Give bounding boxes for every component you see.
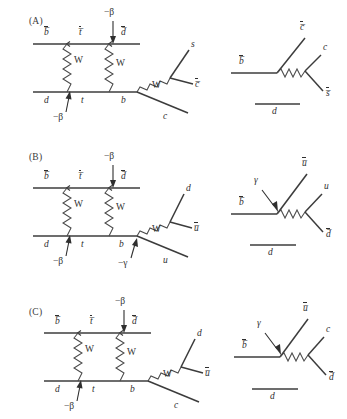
phase-arrowhead-gamma — [132, 238, 138, 247]
decay-product-line-c — [148, 381, 199, 402]
label-w-left: W — [85, 344, 94, 354]
eff-label-bbar: b̅ — [239, 197, 244, 208]
eff-dbar-line — [305, 212, 323, 232]
eff-w-boson-zigzag — [277, 210, 305, 218]
eff-photon-arrowhead — [275, 344, 281, 355]
phase-arrow-bottom — [66, 97, 69, 112]
phase-arrow-bottom — [66, 241, 69, 256]
eff-photon-arrowhead — [272, 201, 278, 212]
eff-label-c: c — [326, 325, 330, 335]
label-top-bbar: b̅ — [44, 171, 49, 182]
w-boson-zigzag-left — [63, 188, 71, 236]
panel-c: (C) b̅ t̅ d̅ d t b W W −β −β W d u̅ c b̅… — [0, 285, 347, 419]
label-w-right: W — [116, 58, 125, 68]
eff-ubar-line — [277, 174, 307, 214]
label-top-dbar: d̅ — [121, 171, 126, 182]
label-w-right: W — [116, 202, 125, 212]
label-phase-bottom: −β — [53, 257, 63, 267]
label-decay-w: W — [163, 369, 172, 379]
label-w-right: W — [127, 347, 136, 357]
label-decay-w: W — [152, 80, 161, 90]
decay-product-line-ubar — [181, 367, 203, 373]
w-boson-zigzag-right — [105, 44, 113, 92]
label-top-tbar: t̅ — [79, 171, 82, 182]
label-decay-c: c — [174, 401, 178, 411]
label-phase-bottom: −β — [64, 402, 74, 412]
decay-product-line-d — [181, 339, 195, 367]
label-bottom-d: d — [55, 385, 60, 395]
label-decay-c: c — [163, 112, 167, 122]
eff-dbar-line — [308, 355, 326, 375]
eff-label-photon: γ — [257, 319, 261, 329]
label-decay-u: u — [163, 256, 168, 266]
decay-product-line-cbar — [170, 78, 193, 84]
label-bottom-b: b — [121, 96, 126, 106]
eff-w-boson-zigzag — [277, 69, 305, 77]
eff-c-line — [308, 337, 324, 355]
eff-label-bbar: b̅ — [239, 56, 244, 67]
eff-photon-arrow — [262, 190, 274, 206]
eff-label-ubar: u̅ — [303, 303, 308, 314]
eff-label-c: c — [323, 43, 327, 53]
w-boson-zigzag-left — [74, 333, 82, 381]
label-top-dbar: d̅ — [132, 316, 137, 327]
label-w-left: W — [74, 55, 83, 65]
phase-arrow-gamma — [131, 244, 135, 258]
eff-label-cbar: c̅ — [300, 22, 304, 33]
eff-label-sbar: s̅ — [326, 88, 330, 99]
label-decay-cbar: c̅ — [195, 79, 199, 90]
label-phase-top: −β — [104, 8, 114, 18]
eff-label-u: u — [324, 182, 329, 192]
decay-product-line-ubar — [170, 222, 192, 228]
eff-u-line — [305, 194, 322, 212]
eff-label-spectator: d — [272, 107, 277, 117]
eff-label-photon: γ — [254, 176, 258, 186]
label-decay-d: d — [186, 184, 191, 194]
w-boson-zigzag-left — [63, 44, 71, 92]
panel-b: (B) b̅ t̅ d̅ d t b W W −β −β −γ W d u̅ u — [0, 140, 347, 285]
eff-ubar-line — [280, 319, 308, 357]
w-boson-zigzag-right — [116, 333, 124, 381]
eff-label-bbar: b̅ — [242, 340, 247, 351]
panel-a: (A) b̅ t̅ — [0, 0, 347, 140]
eff-label-dbar: d̅ — [329, 372, 334, 383]
label-decay-ubar: u̅ — [194, 223, 199, 234]
eff-photon-arrow — [265, 333, 277, 349]
eff-c-line — [305, 55, 321, 71]
eff-cbar-line — [277, 38, 305, 73]
label-top-bbar: b̅ — [44, 27, 49, 38]
label-top-tbar: t̅ — [90, 316, 93, 327]
label-bottom-d: d — [44, 96, 49, 106]
w-boson-zigzag-right — [105, 188, 113, 236]
eff-w-boson-zigzag — [280, 353, 308, 361]
eff-label-spectator: d — [270, 392, 275, 402]
label-phase-bottom: −β — [53, 113, 63, 123]
decay-product-line-d — [170, 194, 184, 222]
decay-product-line-u — [137, 236, 188, 257]
panel-c-graphics — [0, 285, 347, 419]
label-bottom-b: b — [130, 385, 135, 395]
label-decay-w: W — [152, 224, 161, 234]
label-phase-top: −β — [115, 297, 125, 307]
label-top-bbar: b̅ — [55, 316, 60, 327]
label-top-dbar: d̅ — [121, 27, 126, 38]
eff-sbar-line — [305, 71, 323, 91]
label-w-left: W — [74, 199, 83, 209]
label-bottom-t: t — [81, 96, 84, 106]
label-phase-top: −β — [104, 152, 114, 162]
label-bottom-d: d — [44, 240, 49, 250]
eff-label-dbar: d̅ — [326, 229, 331, 240]
eff-label-ubar: u̅ — [302, 158, 307, 169]
label-decay-ubar: u̅ — [205, 368, 210, 379]
label-decay-d: d — [197, 329, 202, 339]
phase-arrow-bottom — [77, 386, 80, 401]
label-bottom-b: b — [119, 240, 124, 250]
label-top-tbar: t̅ — [79, 27, 82, 38]
label-decay-s: s — [191, 40, 195, 50]
decay-product-line-c — [137, 92, 188, 113]
eff-label-spectator: d — [268, 248, 273, 258]
label-bottom-t: t — [92, 385, 95, 395]
label-bottom-t: t — [81, 240, 84, 250]
label-phase-gamma: −γ — [118, 259, 128, 269]
decay-product-line-s — [170, 50, 189, 78]
